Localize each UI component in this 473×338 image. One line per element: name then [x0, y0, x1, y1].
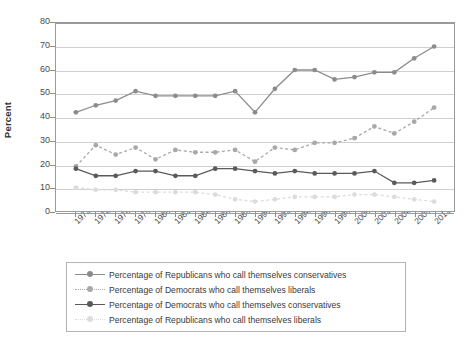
y-axis-tick-label: 20 [20, 159, 50, 169]
data-point [273, 171, 278, 176]
series-rep_cons [74, 44, 437, 115]
series-dem_lib [74, 105, 437, 169]
data-point [113, 187, 118, 192]
plot-area [55, 22, 455, 212]
legend-item-label: Percentage of Democrats who call themsel… [109, 285, 315, 295]
data-point [352, 192, 357, 197]
y-axis-tick-label: 50 [20, 87, 50, 97]
data-point [93, 187, 98, 192]
data-point [193, 150, 198, 155]
legend-item-label: Percentage of Democrats who call themsel… [109, 300, 341, 310]
data-point [312, 68, 317, 73]
data-point [153, 157, 158, 162]
legend-item-label: Percentage of Republicans who call thems… [109, 270, 346, 280]
data-point [213, 192, 218, 197]
data-point [412, 180, 417, 185]
data-point [392, 131, 397, 136]
data-point [372, 124, 377, 129]
series-rep_lib [74, 185, 437, 204]
data-point [74, 185, 79, 190]
y-axis-tick-label: 30 [20, 135, 50, 145]
data-point [352, 75, 357, 80]
data-point [133, 89, 138, 94]
data-point [352, 171, 357, 176]
data-point [93, 143, 98, 148]
data-point [312, 140, 317, 145]
data-point [352, 136, 357, 141]
data-point [392, 195, 397, 200]
gridline [56, 213, 454, 214]
data-point [133, 169, 138, 174]
series-line [76, 108, 434, 167]
y-axis-tick-label: 70 [20, 40, 50, 50]
legend-marker-icon [75, 314, 105, 326]
data-point [292, 68, 297, 73]
data-point [372, 169, 377, 174]
legend-item-2[interactable]: Percentage of Democrats who call themsel… [67, 297, 405, 312]
data-point [412, 119, 417, 124]
y-axis-tick-label: 60 [20, 64, 50, 74]
legend-item-3[interactable]: Percentage of Republicans who call thems… [67, 312, 405, 327]
data-point [253, 199, 258, 204]
data-point [113, 173, 118, 178]
data-point [173, 190, 178, 195]
data-point [292, 195, 297, 200]
series-dem_cons [74, 166, 437, 185]
data-point [233, 89, 238, 94]
data-point [233, 148, 238, 153]
data-point [412, 56, 417, 61]
data-point [93, 173, 98, 178]
data-point [213, 150, 218, 155]
legend-item-label: Percentage of Republicans who call thems… [109, 315, 321, 325]
y-axis-tick-label: 40 [20, 111, 50, 121]
data-point [193, 93, 198, 98]
data-point [372, 70, 377, 75]
data-point [193, 173, 198, 178]
y-axis-tick-label: 80 [20, 16, 50, 26]
data-point [432, 199, 437, 204]
data-point [253, 159, 258, 164]
data-point [74, 110, 79, 115]
series-line [76, 47, 434, 113]
data-point [113, 152, 118, 157]
data-point [312, 195, 317, 200]
data-point [292, 148, 297, 153]
data-point [153, 169, 158, 174]
data-point [273, 145, 278, 150]
data-point [233, 166, 238, 171]
data-point [432, 105, 437, 110]
data-point [213, 93, 218, 98]
data-point [193, 190, 198, 195]
data-point [273, 197, 278, 202]
y-axis-tick-mark [50, 212, 55, 213]
data-point [93, 103, 98, 108]
data-point [173, 93, 178, 98]
y-axis-title: Percent [2, 80, 13, 160]
data-point [292, 169, 297, 174]
legend-item-0[interactable]: Percentage of Republicans who call thems… [67, 267, 405, 282]
data-point [113, 98, 118, 103]
series-layer [56, 23, 454, 211]
data-point [392, 70, 397, 75]
data-point [392, 180, 397, 185]
data-point [432, 178, 437, 183]
legend-marker-icon [75, 299, 105, 311]
data-point [253, 169, 258, 174]
data-point [273, 86, 278, 91]
data-point [74, 166, 79, 171]
data-point [233, 197, 238, 202]
data-point [332, 77, 337, 82]
data-point [173, 148, 178, 153]
data-point [253, 110, 258, 115]
legend-marker-icon [75, 269, 105, 281]
data-point [332, 195, 337, 200]
data-point [332, 140, 337, 145]
y-axis-tick-label: 0 [20, 206, 50, 216]
data-point [153, 93, 158, 98]
chart-figure: Percent 01020304050607080 19721974197619… [0, 0, 473, 338]
legend-item-1[interactable]: Percentage of Democrats who call themsel… [67, 282, 405, 297]
data-point [133, 145, 138, 150]
legend-marker-icon [75, 284, 105, 296]
chart-legend: Percentage of Republicans who call thems… [66, 262, 406, 332]
data-point [213, 166, 218, 171]
